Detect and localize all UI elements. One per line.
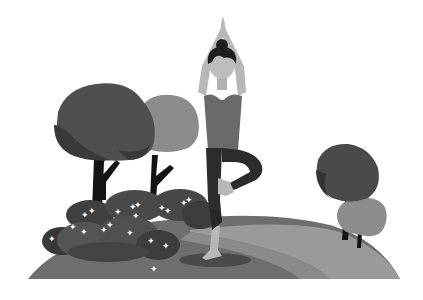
- svg-text:✦: ✦: [48, 234, 56, 244]
- svg-text:✦: ✦: [126, 228, 134, 238]
- svg-text:✦: ✦: [88, 206, 96, 216]
- svg-text:✦: ✦: [106, 220, 114, 230]
- svg-text:✦: ✦: [147, 236, 155, 246]
- svg-text:✦: ✦: [134, 200, 142, 210]
- svg-text:✦: ✦: [80, 227, 88, 237]
- svg-text:✦: ✦: [164, 206, 172, 216]
- svg-text:✦: ✦: [69, 222, 77, 232]
- yoga-illustration: Grayscale flat illustration of a woman d…: [0, 0, 423, 300]
- svg-text:✦: ✦: [150, 264, 158, 274]
- illustration-canvas: ✦ ✦ ✦ ✦ ✦ ✦ ✦ ✦ ✦ ✦ ✦ ✦ ✦ ✦ ✦ ✦ ✦ ✦ ✦: [0, 0, 423, 300]
- svg-text:✦: ✦: [162, 241, 170, 251]
- svg-text:✦: ✦: [132, 211, 140, 221]
- svg-text:✦: ✦: [114, 207, 122, 217]
- svg-text:✦: ✦: [185, 195, 193, 205]
